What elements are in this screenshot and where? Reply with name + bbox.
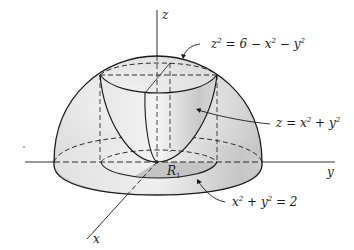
x-axis-label: x bbox=[93, 232, 100, 246]
y-axis-label: y bbox=[326, 165, 334, 179]
origin-point bbox=[155, 160, 158, 163]
paraboloid-equation-label: z = x2 + y2 bbox=[275, 116, 341, 130]
surface-diagram: z y x z2 = 6 − x2 − y2 z = x2 + y2 R1 x2… bbox=[0, 0, 354, 250]
stray-mark bbox=[23, 146, 25, 148]
diagram-canvas: z y x z2 = 6 − x2 − y2 z = x2 + y2 R1 x2… bbox=[0, 0, 354, 250]
boundary-equation-label: x2 + y2 = 2 bbox=[232, 195, 298, 209]
z-axis-label: z bbox=[161, 8, 169, 22]
hemisphere-equation-label: z2 = 6 − x2 − y2 bbox=[210, 37, 306, 51]
